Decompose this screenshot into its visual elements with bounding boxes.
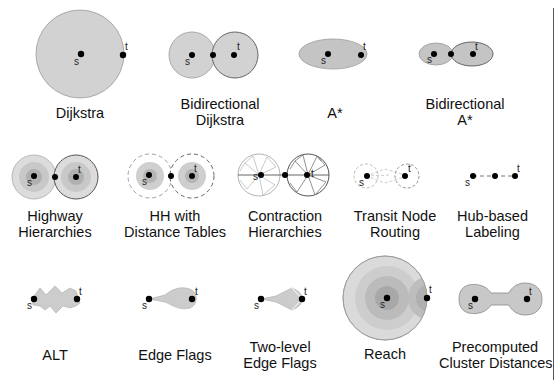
label-highway-hierarchies: Highway Hierarchies	[0, 208, 110, 240]
label-dijkstra: Dijkstra	[30, 105, 130, 121]
svg-text:s: s	[185, 56, 190, 67]
svg-text:t: t	[304, 286, 307, 297]
svg-text:t: t	[78, 164, 81, 175]
technique-dijkstra: s t Dijkstra	[0, 0, 130, 125]
label-hub-based-labeling: Hub-based Labeling	[445, 208, 540, 240]
svg-text:t: t	[194, 163, 197, 174]
svg-text:s: s	[142, 176, 147, 187]
label-bidirectional-a-star: Bidirectional A*	[410, 96, 520, 128]
technique-hh-distance-tables: s t HH with Distance Tables	[120, 125, 235, 250]
svg-text:s: s	[74, 56, 79, 67]
svg-text:t: t	[363, 41, 366, 52]
label-reach: Reach	[335, 346, 435, 362]
technique-two-level-edge-flags: s t Two-level Edge Flags	[230, 255, 335, 380]
svg-text:t: t	[125, 41, 128, 52]
technique-alt: s t ALT	[0, 255, 120, 380]
label-contraction-hierarchies: Contraction Hierarchies	[230, 208, 340, 240]
svg-text:s: s	[253, 171, 258, 182]
technique-edge-flags: s t Edge Flags	[120, 255, 230, 380]
svg-text:s: s	[427, 54, 432, 65]
technique-a-star: s t A*	[295, 0, 395, 125]
svg-text:s: s	[254, 300, 259, 311]
technique-highway-hierarchies: s t Highway Hierarchies	[0, 125, 115, 250]
technique-hub-based-labeling: s t Hub-based Labeling	[455, 125, 550, 250]
technique-contraction-hierarchies: s t Contraction Hierarchies	[235, 125, 350, 250]
technique-precomputed-cluster-distances: s t Precomputed Cluster Distances	[445, 255, 553, 380]
svg-text:s: s	[465, 177, 470, 188]
svg-text:s: s	[142, 300, 147, 311]
svg-text:t: t	[517, 163, 520, 174]
label-bidirectional-dijkstra: Bidirectional Dijkstra	[160, 96, 280, 128]
technique-bidirectional-dijkstra: s t Bidirectional Dijkstra	[160, 0, 280, 125]
svg-text:t: t	[237, 41, 240, 52]
right-border-line	[553, 8, 554, 380]
label-two-level-edge-flags: Two-level Edge Flags	[230, 339, 330, 371]
svg-text:t: t	[529, 286, 532, 297]
label-hh-distance-tables: HH with Distance Tables	[115, 208, 235, 240]
label-transit-node-routing: Transit Node Routing	[340, 208, 450, 240]
shortest-path-techniques-figure: s t Dijkstra s t Bidirectional Dijkstra …	[0, 0, 557, 380]
svg-text:s: s	[27, 300, 32, 311]
svg-text:s: s	[380, 299, 385, 310]
label-alt: ALT	[0, 347, 110, 363]
svg-text:s: s	[321, 55, 326, 66]
svg-text:s: s	[468, 300, 473, 311]
svg-text:t: t	[195, 286, 198, 297]
label-precomputed-cluster-distances: Precomputed Cluster Distances	[439, 339, 551, 371]
svg-text:t: t	[429, 284, 432, 295]
svg-text:t: t	[79, 286, 82, 297]
technique-transit-node-routing: s t Transit Node Routing	[350, 125, 455, 250]
technique-reach: s t Reach	[335, 255, 445, 380]
svg-text:t: t	[475, 41, 478, 52]
svg-text:t: t	[408, 163, 411, 174]
technique-bidirectional-a-star: s t Bidirectional A*	[410, 0, 520, 125]
svg-text:t: t	[311, 168, 314, 179]
label-a-star: A*	[295, 105, 375, 121]
svg-text:s: s	[27, 177, 32, 188]
label-edge-flags: Edge Flags	[120, 347, 230, 363]
svg-text:s: s	[359, 177, 364, 188]
